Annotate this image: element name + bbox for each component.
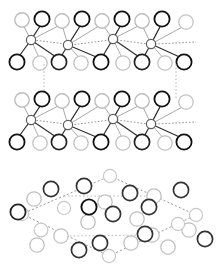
atom-basal-dark [43, 181, 58, 196]
atom-basal-light [189, 208, 202, 221]
atom-ligand-light [15, 93, 29, 107]
atom-basal-dark [71, 242, 86, 257]
chain-band-upper [9, 11, 196, 70]
atom-ligand-dark [34, 91, 49, 106]
atom-ligand-light [33, 56, 47, 70]
atom-basal-light [34, 223, 48, 237]
atom-ligand-dark [9, 134, 24, 149]
atom-metal-center [26, 35, 35, 44]
atom-basal-dark [173, 182, 188, 197]
atom-metal-center [26, 115, 35, 124]
atom-ligand-dark [51, 134, 66, 149]
atom-ligand-dark [134, 134, 149, 149]
atom-basal-light [54, 229, 68, 243]
atom-ligand-light [179, 15, 193, 29]
ligand-row-top-lower [15, 91, 193, 109]
figure-root [0, 0, 218, 271]
atom-ligand-light [135, 14, 149, 28]
atom-ligand-dark [9, 54, 24, 69]
atom-basal-dark [105, 206, 120, 221]
atom-ligand-dark [74, 11, 89, 26]
atom-basal-dark [76, 178, 91, 193]
metal-row-upper [26, 34, 155, 49]
atom-basal-light [171, 217, 184, 230]
atom-ligand-light [116, 136, 130, 150]
atom-basal-dark [10, 204, 25, 219]
atom-metal-center [63, 40, 72, 49]
basal-plane-cell [10, 169, 212, 262]
atom-basal-light [81, 215, 95, 229]
atom-basal-light [130, 212, 144, 226]
atom-basal-dark [92, 235, 107, 250]
atom-ligand-dark [114, 91, 129, 106]
atom-metal-center [63, 120, 72, 129]
atom-ligand-light [15, 13, 29, 27]
atom-basal-light [30, 238, 44, 252]
atom-ligand-light [95, 14, 109, 28]
atom-ligand-light [33, 136, 47, 150]
atom-ligand-light [158, 56, 172, 70]
atom-ligand-light [74, 56, 88, 70]
atom-ligand-light [158, 136, 172, 150]
atom-ligand-light [135, 94, 149, 108]
atom-basal-light [57, 201, 70, 214]
atom-ligand-light [179, 95, 193, 109]
atom-basal-light [27, 192, 41, 206]
atom-basal-dark [141, 199, 156, 214]
crystal-structure-figure [0, 0, 218, 271]
atom-basal-light [161, 240, 175, 254]
atom-basal-dark [122, 185, 137, 200]
metal-row-lower [26, 114, 155, 129]
atom-metal-center [108, 34, 117, 43]
atom-ligand-dark [154, 91, 169, 106]
atom-basal-light [102, 249, 115, 262]
ligand-row-bottom-lower [9, 134, 191, 150]
atom-basal-light [124, 236, 138, 250]
ligand-row-bottom-upper [9, 54, 191, 70]
atom-ligand-dark [51, 54, 66, 69]
atom-metal-center [146, 39, 155, 48]
atom-ligand-light [116, 56, 130, 70]
atom-metal-center [108, 114, 117, 123]
atom-basal-dark [197, 231, 212, 246]
atom-metal-center [146, 119, 155, 128]
atom-ligand-light [95, 94, 109, 108]
atom-ligand-dark [134, 54, 149, 69]
atom-ligand-dark [93, 134, 108, 149]
ligand-row-top-upper [15, 11, 193, 29]
atom-ligand-dark [93, 54, 108, 69]
atom-ligand-dark [176, 54, 191, 69]
atom-ligand-dark [34, 11, 49, 26]
atom-basal-dark-center [81, 199, 96, 214]
atom-ligand-dark [74, 91, 89, 106]
atom-ligand-light [55, 94, 69, 108]
atom-ligand-dark [176, 134, 191, 149]
chain-band-lower [9, 91, 196, 150]
atom-basal-dark [137, 226, 152, 241]
atom-basal-light [103, 169, 116, 182]
atom-ligand-light [74, 136, 88, 150]
atom-ligand-light [55, 14, 69, 28]
atom-ligand-dark [154, 11, 169, 26]
atom-ligand-dark [114, 11, 129, 26]
